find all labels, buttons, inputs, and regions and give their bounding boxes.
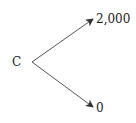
down-outcome-label: 0 (96, 102, 104, 114)
up-branch-arrow (32, 19, 93, 62)
down-branch-arrow (32, 62, 93, 107)
root-node-label: C (12, 56, 21, 68)
binomial-tree-diagram: C 2,000 0 (0, 0, 136, 123)
up-outcome-label: 2,000 (96, 13, 130, 25)
